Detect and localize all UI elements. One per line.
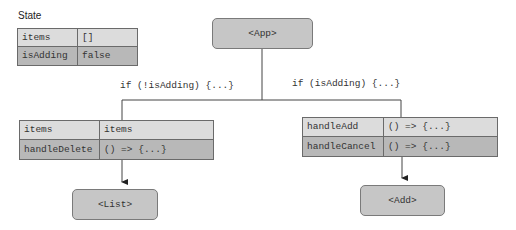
add-props-table: handleAdd () => {...} handleCancel () =>…	[302, 117, 498, 157]
state-table: items [] isAdding false	[17, 28, 138, 66]
condition-left: if (!isAdding) {...}	[120, 80, 234, 91]
list-prop-row: handleDelete () => {...}	[20, 140, 213, 159]
state-title: State	[18, 10, 41, 21]
prop-value: items	[100, 121, 133, 139]
state-row-isadding: isAdding false	[18, 47, 137, 65]
state-key: isAdding	[18, 47, 78, 65]
list-prop-row: items items	[20, 121, 213, 140]
prop-key: items	[20, 121, 100, 139]
prop-value: () => {...}	[384, 118, 451, 136]
state-value: []	[78, 29, 93, 46]
add-prop-row: handleCancel () => {...}	[303, 137, 497, 156]
prop-key: handleAdd	[303, 118, 384, 136]
app-node: <App>	[212, 18, 313, 49]
list-node: <List>	[72, 189, 158, 220]
prop-key: handleCancel	[303, 137, 384, 156]
prop-value: () => {...}	[100, 140, 167, 159]
prop-value: () => {...}	[384, 137, 451, 156]
state-value: false	[78, 47, 111, 65]
add-node: <Add>	[360, 185, 445, 216]
condition-right: if (isAdding) {...}	[292, 78, 400, 89]
list-props-table: items items handleDelete () => {...}	[19, 120, 214, 160]
add-prop-row: handleAdd () => {...}	[303, 118, 497, 137]
prop-key: handleDelete	[20, 140, 100, 159]
state-row-items: items []	[18, 29, 137, 47]
state-key: items	[18, 29, 78, 46]
